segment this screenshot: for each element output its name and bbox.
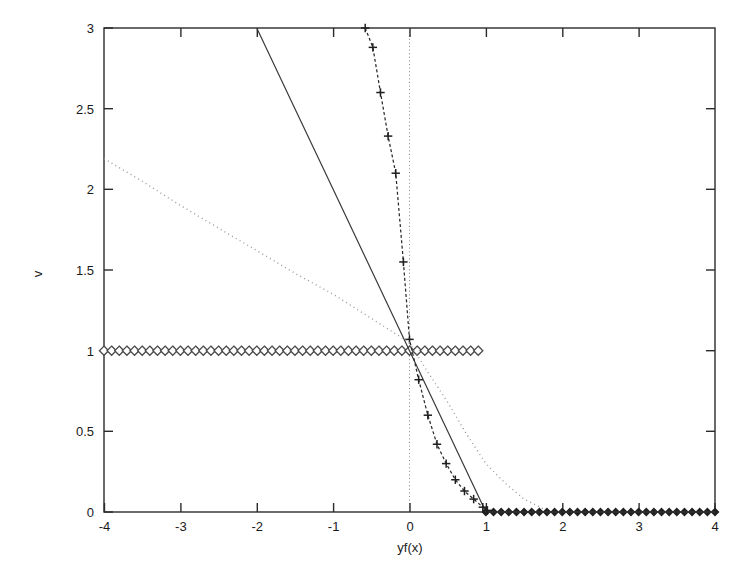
y-axis-title: v: [30, 270, 45, 277]
x-axis-tick-labels: -4 -3 -2 -1 0 1 2 3 4: [99, 519, 719, 534]
x-axis-ticks-top: [181, 28, 639, 37]
hinge-loss-line: [257, 28, 715, 512]
x-tick-label: 3: [635, 519, 642, 534]
y-tick-label: 0: [87, 505, 94, 520]
x-tick-label: 0: [406, 519, 413, 534]
y-axis-tick-labels: 0 0.5 1 1.5 2 2.5 3: [76, 21, 94, 520]
data-series-layer: [99, 24, 718, 516]
x-axis-title: yf(x): [397, 540, 422, 555]
y-axis-ticks-right: [706, 109, 715, 432]
x-tick-label: 4: [711, 519, 718, 534]
y-tick-label: 0.5: [76, 424, 94, 439]
y-axis-ticks: [104, 28, 113, 512]
y-tick-label: 2: [87, 182, 94, 197]
x-tick-label: -2: [252, 519, 264, 534]
x-tick-label: 1: [483, 519, 490, 534]
logistic-loss-line: [104, 159, 543, 509]
y-tick-label: 3: [87, 21, 94, 36]
figure-canvas: -4 -3 -2 -1 0 1 2 3 4 0 0.5 1 1.5 2 2.5 …: [0, 0, 750, 576]
x-tick-label: -4: [99, 519, 111, 534]
x-tick-label: 2: [559, 519, 566, 534]
y-tick-label: 1: [87, 344, 94, 359]
series-misclassification-loss-0-1: [99, 346, 718, 516]
loss-function-chart: -4 -3 -2 -1 0 1 2 3 4 0 0.5 1 1.5 2 2.5 …: [0, 0, 750, 576]
series-logistic-loss: [104, 159, 543, 509]
y-tick-label: 2.5: [76, 102, 94, 117]
x-tick-label: -1: [328, 519, 340, 534]
misclassification-loss-0-1-marker: [474, 346, 483, 355]
series-hinge-loss: [257, 28, 715, 512]
x-tick-label: -3: [175, 519, 187, 534]
exponential-loss-line: [365, 28, 487, 510]
y-tick-label: 1.5: [76, 263, 94, 278]
series-exponential-loss: [361, 24, 492, 515]
